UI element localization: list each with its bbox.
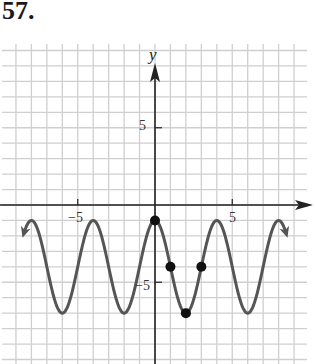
function-graph: y −5 5 5 −5 [0, 0, 315, 364]
y-axis-label: y [147, 45, 157, 64]
y-tick-label-pos5: 5 [139, 118, 146, 133]
x-tick-label-neg5: −5 [68, 210, 83, 225]
y-tick-label-neg5: −5 [135, 278, 150, 293]
x-tick-label-pos5: 5 [229, 210, 236, 225]
